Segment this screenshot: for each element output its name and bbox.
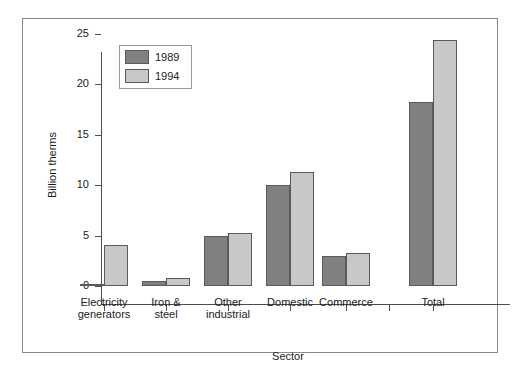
x-axis-title: Sector [228, 350, 348, 362]
bar-1994-1 [166, 278, 190, 286]
y-tick-10 [95, 185, 101, 186]
bar-1989-3 [266, 185, 290, 286]
y-tick-0 [95, 286, 101, 287]
category-label-5: Total [393, 296, 473, 308]
y-tick-15 [95, 135, 101, 136]
chart-frame: 1989 1994 0510152025 Electricity generat… [22, 18, 498, 353]
legend-swatch-1989 [125, 50, 149, 64]
bar-1994-0 [104, 245, 128, 286]
chart-legend: 1989 1994 [119, 45, 192, 89]
legend-label-1989: 1989 [155, 50, 179, 64]
bar-1994-2 [228, 233, 252, 286]
category-label-4: Commerce [306, 296, 386, 308]
bar-1994-4 [346, 253, 370, 286]
legend-label-1994: 1994 [155, 69, 179, 83]
y-tick-20 [95, 84, 101, 85]
bar-1989-4 [322, 256, 346, 286]
chart-page: 1989 1994 0510152025 Electricity generat… [0, 0, 520, 372]
x-tick-separator [389, 305, 390, 311]
y-tick-label-5: 5 [49, 230, 89, 241]
bar-1994-3 [290, 172, 314, 286]
y-tick-5 [95, 236, 101, 237]
y-axis-line [101, 52, 102, 305]
y-tick-label-25: 25 [49, 28, 89, 39]
legend-swatch-1994 [125, 69, 149, 83]
bar-1989-1 [142, 281, 166, 286]
y-tick-label-20: 20 [49, 78, 89, 89]
bar-1989-5 [409, 102, 433, 286]
bar-1994-5 [433, 40, 457, 286]
y-tick-25 [95, 34, 101, 35]
bar-1989-2 [204, 236, 228, 286]
bar-1989-0 [80, 284, 104, 286]
y-axis-title: Billion therms [46, 105, 58, 225]
